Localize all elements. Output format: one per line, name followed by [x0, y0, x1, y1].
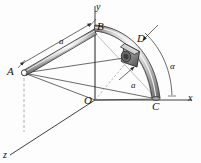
z-axis [10, 100, 95, 155]
label-axis-z: z [3, 150, 7, 160]
label-point-a: A [7, 66, 14, 77]
label-point-b: B [97, 21, 104, 32]
ball-joint-a-inner [22, 71, 24, 74]
label-point-o: O [84, 95, 92, 106]
dim-ext-line-a [18, 60, 25, 68]
label-point-d: D [137, 33, 145, 44]
label-axis-x: x [188, 93, 192, 103]
label-point-c: C [152, 101, 159, 112]
label-length-a: a [59, 37, 64, 46]
alpha-leader-upper [143, 25, 158, 40]
label-axis-y: y [96, 2, 100, 12]
mechanics-figure: A B C D O x y z a a α [0, 0, 201, 163]
label-angle-alpha: α [170, 62, 175, 71]
label-radius-a: a [131, 81, 136, 90]
dimension-length-a [18, 19, 96, 68]
